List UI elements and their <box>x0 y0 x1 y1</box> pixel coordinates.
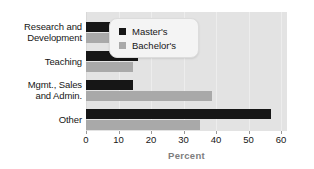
category-label-line: and Admin. <box>2 90 82 101</box>
bar-masters <box>86 109 271 119</box>
x-tick-label: 0 <box>74 134 98 145</box>
bar-chart: Research andDevelopmentTeachingMgmt., Sa… <box>0 0 314 169</box>
chart-legend: Master'sBachelor's <box>109 18 199 58</box>
x-tick-label: 60 <box>269 134 293 145</box>
category-label: Other <box>2 114 82 125</box>
bar-bachelors <box>86 120 200 130</box>
bar-group <box>86 108 287 131</box>
category-label-line: Research and <box>2 21 82 32</box>
legend-item: Master's <box>110 24 198 38</box>
legend-swatch-icon <box>119 42 126 49</box>
legend-label: Bachelor's <box>132 40 176 51</box>
legend-item: Bachelor's <box>110 38 198 52</box>
x-tick-label: 20 <box>139 134 163 145</box>
category-label-line: Development <box>2 32 82 43</box>
category-label-line: Mgmt., Sales <box>2 79 82 90</box>
category-label: Mgmt., Salesand Admin. <box>2 79 82 101</box>
x-tick-label: 10 <box>107 134 131 145</box>
category-label: Research andDevelopment <box>2 21 82 43</box>
x-tick-label: 40 <box>204 134 228 145</box>
category-label-line: Other <box>2 114 82 125</box>
legend-swatch-icon <box>119 28 126 35</box>
bar-group <box>86 79 287 105</box>
category-axis-labels: Research andDevelopmentTeachingMgmt., Sa… <box>0 12 82 131</box>
x-axis: 0102030405060 <box>86 131 287 147</box>
legend-label: Master's <box>132 26 168 37</box>
bar-bachelors <box>86 62 133 72</box>
bar-bachelors <box>86 91 212 101</box>
category-label-line: Teaching <box>2 56 82 67</box>
x-axis-title: Percent <box>86 150 287 161</box>
bar-masters <box>86 80 133 90</box>
category-label: Teaching <box>2 56 82 67</box>
x-tick-label: 50 <box>237 134 261 145</box>
x-tick-label: 30 <box>172 134 196 145</box>
